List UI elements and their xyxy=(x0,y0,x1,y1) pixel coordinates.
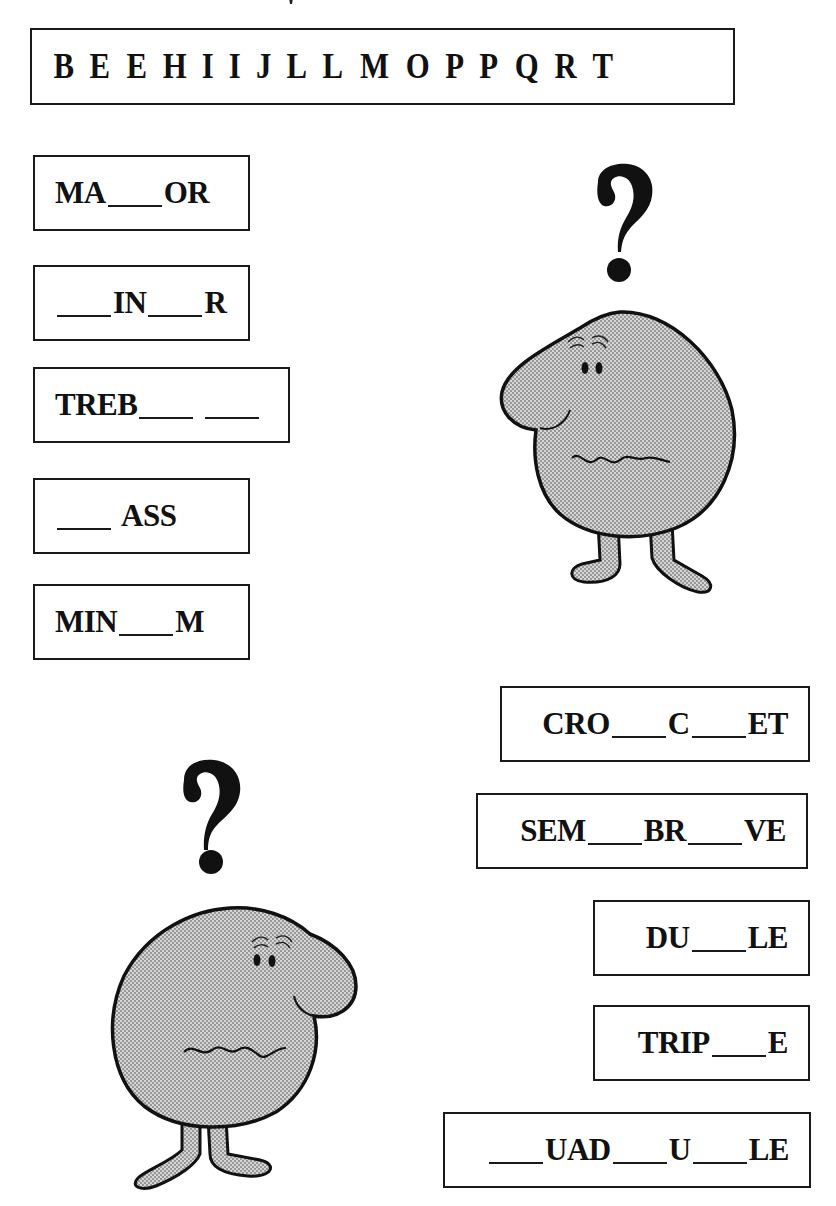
word-fragment: VE xyxy=(744,813,786,849)
word-fragment: BR xyxy=(644,813,686,849)
letter-tile[interactable]: Q xyxy=(514,47,538,87)
word-box-trip-e[interactable]: TRIPE xyxy=(593,1005,810,1081)
word-fragment: LE xyxy=(749,1132,789,1168)
word-fragment: CRO xyxy=(542,706,609,742)
word-fragment: R xyxy=(204,285,226,321)
letter-blank[interactable] xyxy=(57,315,111,317)
confused-character-top-right xyxy=(480,160,740,610)
word-fragment: MIN xyxy=(55,604,117,640)
letter-blank[interactable] xyxy=(489,1162,543,1164)
question-mark-icon xyxy=(183,760,240,874)
letter-blank[interactable] xyxy=(712,1055,766,1057)
letter-blank[interactable] xyxy=(688,843,742,845)
letter-tile[interactable]: E xyxy=(90,47,111,87)
letter-blank[interactable] xyxy=(588,843,642,845)
letter-tile[interactable]: J xyxy=(256,47,271,87)
word-fragment: LE xyxy=(748,920,788,956)
word-box-du-le[interactable]: DULE xyxy=(593,900,810,976)
word-box-uad-u-le[interactable]: UADULE xyxy=(443,1112,811,1188)
letter-tile[interactable]: M xyxy=(360,47,389,87)
letter-blank[interactable] xyxy=(692,950,746,952)
word-fragment: M xyxy=(175,604,204,640)
letter-tile[interactable]: L xyxy=(286,47,307,87)
word-fragment: TREB xyxy=(55,387,137,423)
cropped-glyph-fragment xyxy=(286,0,296,6)
word-fragment: UAD xyxy=(545,1132,611,1168)
word-box-in-r[interactable]: INR xyxy=(33,265,250,341)
letter-blank[interactable] xyxy=(612,736,666,738)
letter-blank[interactable] xyxy=(148,315,202,317)
letter-blank[interactable] xyxy=(108,205,162,207)
letter-bank: BEEHIIJLLMOPPQRT xyxy=(30,28,735,105)
letter-tile[interactable]: I xyxy=(229,47,241,87)
letter-tile[interactable]: H xyxy=(163,47,187,87)
letter-tile[interactable]: R xyxy=(555,47,577,87)
letter-tile[interactable]: B xyxy=(53,47,74,87)
letter-blank[interactable] xyxy=(205,417,259,419)
word-fragment: ASS xyxy=(121,498,176,534)
letter-tile[interactable]: E xyxy=(126,47,147,87)
letter-tile[interactable]: T xyxy=(593,47,614,87)
letter-tile[interactable]: O xyxy=(405,47,429,87)
word-fragment: DU xyxy=(646,920,690,956)
word-box-ma-or[interactable]: MAOR xyxy=(33,155,250,231)
letter-tile[interactable]: L xyxy=(323,47,344,87)
letter-blank[interactable] xyxy=(57,528,111,530)
letter-blank[interactable] xyxy=(692,736,746,738)
word-fragment: E xyxy=(768,1025,788,1061)
letter-tile[interactable]: P xyxy=(445,47,464,87)
word-fragment: C xyxy=(668,706,690,742)
word-fragment: U xyxy=(669,1132,691,1168)
letter-blank[interactable] xyxy=(613,1162,667,1164)
word-box-ass[interactable]: ASS xyxy=(33,478,250,554)
word-box-sem-br-ve[interactable]: SEMBRVE xyxy=(476,793,808,869)
confused-character-bottom-left xyxy=(100,750,380,1206)
letter-blank[interactable] xyxy=(139,417,193,419)
letter-tile[interactable]: P xyxy=(480,47,499,87)
word-fragment: OR xyxy=(164,175,210,211)
question-mark-icon xyxy=(597,164,652,282)
letter-blank[interactable] xyxy=(119,634,173,636)
word-box-treb[interactable]: TREB xyxy=(33,367,290,443)
word-fragment: MA xyxy=(55,175,106,211)
letter-bank-letters: BEEHIIJLLMOPPQRT xyxy=(52,47,628,87)
word-fragment: ET xyxy=(748,706,788,742)
word-box-cro-c-et[interactable]: CROCET xyxy=(500,686,810,762)
letter-blank[interactable] xyxy=(693,1162,747,1164)
word-fragment: IN xyxy=(113,285,146,321)
word-box-min-m[interactable]: MINM xyxy=(33,584,250,660)
word-fragment: TRIP xyxy=(638,1025,710,1061)
word-fragment: SEM xyxy=(520,813,586,849)
letter-tile[interactable]: I xyxy=(202,47,214,87)
